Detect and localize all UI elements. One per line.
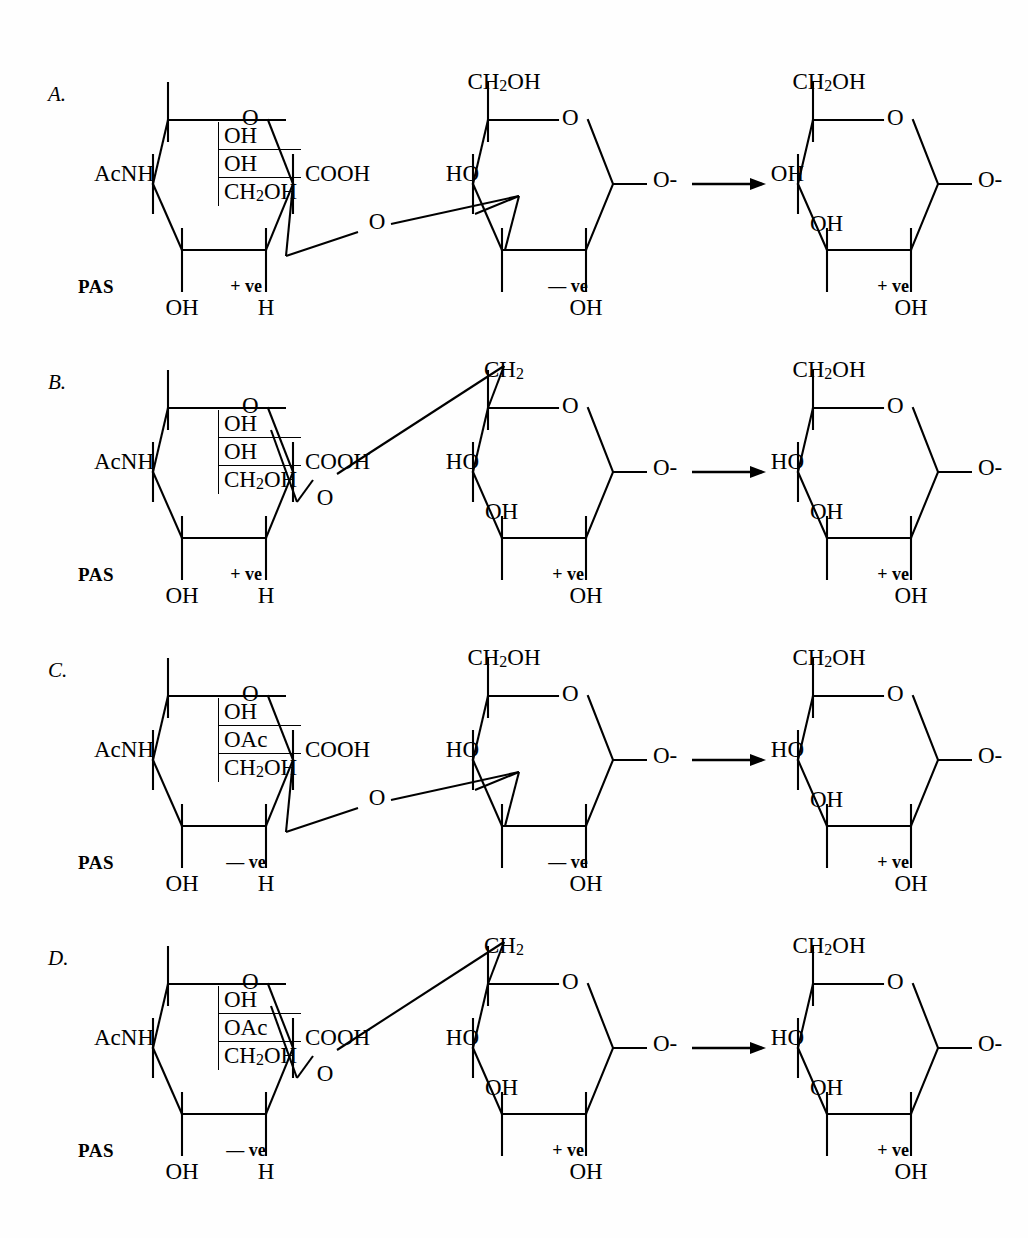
- ring-bond-c1-c2: [586, 1048, 613, 1114]
- ring-bond-c1-c2: [911, 760, 938, 826]
- mid-o-minus-A: O-: [653, 168, 677, 191]
- left-bottom-h-B: H: [258, 584, 275, 607]
- mid-o-minus-B: O-: [653, 456, 677, 479]
- glycosidic-linkage-A: [286, 184, 519, 256]
- left-cooh-label-C: COOH: [305, 738, 370, 761]
- reaction-arrow-A: [692, 178, 766, 190]
- left-bottom-oh-B: OH: [165, 584, 198, 607]
- right-ring-D: [798, 946, 972, 1156]
- ring-bond-c1-c2: [586, 472, 613, 538]
- left-acnh-label-B: AcNH: [94, 450, 154, 473]
- mid-upperleft-oh-D: HO: [446, 1026, 479, 1049]
- right-bottom-oh-A: OH: [894, 296, 927, 319]
- left-substituent-3-C: CH2OH: [219, 753, 301, 782]
- right-o-minus-D: O-: [978, 1032, 1002, 1055]
- linkage-oxygen-D: O: [317, 1062, 334, 1085]
- linkage-oxygen-B: O: [317, 486, 334, 509]
- mid-top-group-D: CH2: [484, 934, 524, 958]
- right-ring-C: [798, 658, 972, 868]
- mid-top-group-B: CH2: [484, 358, 524, 382]
- left-substituent-stack-D: OHOAcCH2OH: [218, 986, 301, 1070]
- link-to-o: [286, 232, 358, 256]
- left-substituent-stack-C: OHOAcCH2OH: [218, 698, 301, 782]
- left-cooh-label-B: COOH: [305, 450, 370, 473]
- middle-ring-C: [473, 658, 647, 868]
- right-upperleft-oh-C: HO: [771, 738, 804, 761]
- ring-bond-c4-c5: [153, 696, 168, 760]
- left-bottom-oh-D: OH: [165, 1160, 198, 1183]
- mid-lowerleft-oh-D: OH: [485, 1076, 518, 1099]
- ring-bond-o-c1: [588, 984, 613, 1048]
- pas-result-left-A: + ve: [230, 276, 262, 297]
- row-letter-C: C.: [48, 658, 67, 683]
- mid-bottom-oh-D: OH: [569, 1160, 602, 1183]
- mid-ring-oxygen-D: O: [562, 970, 579, 993]
- ring-bond-c4-c5: [153, 120, 168, 184]
- ring-bond-c1-c2: [911, 1048, 938, 1114]
- left-substituent-1-D: OH: [219, 986, 301, 1013]
- mid-o-minus-C: O-: [653, 744, 677, 767]
- right-lowerleft-oh-B: OH: [810, 500, 843, 523]
- link-to-o: [286, 808, 358, 832]
- mid-upperleft-oh-A: HO: [446, 162, 479, 185]
- pas-label-C: PAS: [78, 852, 114, 874]
- right-top-group-C: CH2OH: [792, 646, 865, 670]
- right-top-group-D: CH2OH: [792, 934, 865, 958]
- left-substituent-1-C: OH: [219, 698, 301, 725]
- pas-result-right-D: + ve: [877, 1140, 909, 1161]
- row-D: AcNHOCOOHOHHOHOAcCH2OHCH2OHOOHO-OHOCH2OH…: [0, 908, 1028, 1196]
- left-bottom-h-C: H: [258, 872, 275, 895]
- right-ring-B: [798, 370, 972, 580]
- link-stub-into-c3: [505, 196, 519, 250]
- left-substituent-3-B: CH2OH: [219, 465, 301, 494]
- pas-result-left-D: — ve: [226, 1140, 266, 1161]
- mid-lowerleft-oh-B: OH: [485, 500, 518, 523]
- pas-result-left-C: — ve: [226, 852, 266, 873]
- right-o-minus-C: O-: [978, 744, 1002, 767]
- right-top-group-B: CH2OH: [792, 358, 865, 382]
- glycosidic-linkage-D: [271, 942, 504, 1078]
- mid-bottom-oh-A: OH: [569, 296, 602, 319]
- right-bottom-oh-B: OH: [894, 584, 927, 607]
- left-substituent-2-A: OH: [219, 149, 301, 177]
- ring-bond-c1-c2: [586, 760, 613, 826]
- left-cooh-label-D: COOH: [305, 1026, 370, 1049]
- right-upperleft-oh-B: HO: [771, 450, 804, 473]
- mid-ring-oxygen-A: O: [562, 106, 579, 129]
- link-stub-into-c3: [505, 772, 519, 826]
- pas-label-D: PAS: [78, 1140, 114, 1162]
- left-acnh-label-A: AcNH: [94, 162, 154, 185]
- row-letter-A: A.: [48, 82, 66, 107]
- mid-bottom-oh-B: OH: [569, 584, 602, 607]
- right-top-group-A: CH2OH: [792, 70, 865, 94]
- row-letter-D: D.: [48, 946, 68, 971]
- mid-top-group-C: CH2OH: [467, 646, 540, 670]
- left-substituent-stack-A: OHOHCH2OH: [218, 122, 301, 206]
- ring-bond-c1-c2: [586, 184, 613, 250]
- right-lowerleft-oh-D: OH: [810, 1076, 843, 1099]
- linkage-oxygen-C: O: [369, 786, 386, 809]
- right-o-minus-A: O-: [978, 168, 1002, 191]
- left-substituent-stack-B: OHOHCH2OH: [218, 410, 301, 494]
- middle-ring-B: [473, 370, 647, 580]
- reaction-arrow-B: [692, 466, 766, 478]
- pas-result-middle-A: — ve: [548, 276, 588, 297]
- ring-bond-o-c1: [588, 696, 613, 760]
- right-ring-oxygen-B: O: [887, 394, 904, 417]
- right-upperleft-oh-D: HO: [771, 1026, 804, 1049]
- left-bottom-h-A: H: [258, 296, 275, 319]
- right-ring-oxygen-A: O: [887, 106, 904, 129]
- pas-result-left-B: + ve: [230, 564, 262, 585]
- row-A: AcNHOCOOHOHHOHOHCH2OHCH2OHOHOOHO-OCH2OHO…: [0, 44, 1028, 332]
- right-lowerleft-oh-C: OH: [810, 788, 843, 811]
- reaction-arrow-C: [692, 754, 766, 766]
- right-ring-A: [798, 82, 972, 292]
- pas-result-right-C: + ve: [877, 852, 909, 873]
- left-substituent-1-B: OH: [219, 410, 301, 437]
- link-o-to-ring: [391, 772, 519, 800]
- ring-bond-c1-c2: [911, 472, 938, 538]
- mid-o-minus-D: O-: [653, 1032, 677, 1055]
- row-letter-B: B.: [48, 370, 66, 395]
- left-acnh-label-D: AcNH: [94, 1026, 154, 1049]
- ring-bond-o-c1: [588, 408, 613, 472]
